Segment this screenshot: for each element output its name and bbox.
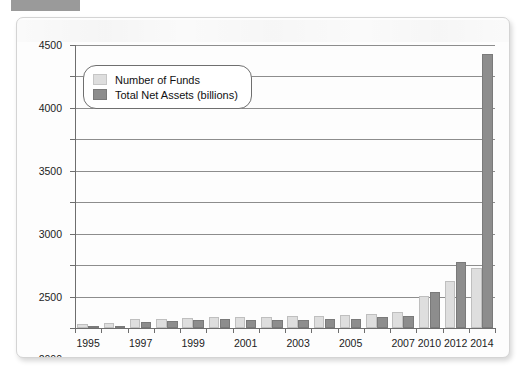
x-axis-tick-label: 2005	[339, 337, 362, 349]
x-axis-tick-label: 2001	[234, 337, 257, 349]
x-axis-tick	[495, 328, 496, 333]
gridline	[75, 139, 495, 140]
y-axis-tick: 4000	[70, 76, 75, 77]
bar-funds-2014	[471, 268, 482, 328]
bar-assets-2001	[246, 320, 257, 328]
y-axis-tick: 3000	[70, 139, 75, 140]
x-axis-tick	[154, 328, 155, 333]
bar-assets-2010	[430, 292, 441, 328]
bar-assets-2000	[220, 319, 231, 328]
bar-funds-2010	[419, 296, 430, 328]
y-axis-tick-label: 3000	[39, 228, 62, 240]
y-axis-tick: 1000	[70, 265, 75, 266]
bar-assets-2012	[456, 262, 467, 328]
bar-funds-1996	[104, 323, 115, 328]
x-axis-tick-label: 2010	[418, 337, 441, 349]
x-axis-tick	[206, 328, 207, 333]
y-axis-tick: 3500	[70, 108, 75, 109]
background-bleed-through	[17, 20, 509, 42]
y-axis-tick: 1500	[70, 234, 75, 235]
y-axis-tick: 2500	[70, 171, 75, 172]
bar-funds-2006	[366, 314, 377, 328]
legend-label-funds: Number of Funds	[115, 74, 200, 86]
x-axis-tick	[364, 328, 365, 333]
x-axis-tick	[101, 328, 102, 333]
legend-label-assets: Total Net Assets (billions)	[115, 89, 238, 101]
bar-assets-2007	[403, 316, 414, 328]
gridline	[75, 234, 495, 235]
x-axis-tick-label: 2003	[286, 337, 309, 349]
x-axis-tick	[259, 328, 260, 333]
x-axis-tick-label: 1997	[129, 337, 152, 349]
x-axis-tick	[180, 328, 181, 333]
bar-funds-2005	[340, 315, 351, 328]
bar-funds-2002	[261, 317, 272, 328]
x-axis-tick	[416, 328, 417, 333]
x-axis-tick-label: 1995	[76, 337, 99, 349]
x-axis-tick-label: 1999	[181, 337, 204, 349]
x-axis-tick	[128, 328, 129, 333]
x-axis-tick	[443, 328, 444, 333]
gridline	[75, 45, 495, 46]
x-axis-tick-label: 2014	[470, 337, 493, 349]
x-axis-tick-label: 2007	[391, 337, 414, 349]
x-axis-tick	[285, 328, 286, 333]
chart-card: 050010001500200025003000350040004500 199…	[16, 17, 510, 358]
y-axis-tick-label: 4500	[39, 39, 62, 51]
y-axis-tick-label: 3500	[39, 165, 62, 177]
x-axis-tick	[75, 328, 76, 333]
gridline	[75, 171, 495, 172]
gridline	[75, 202, 495, 203]
x-axis-tick	[233, 328, 234, 333]
bar-assets-2004	[325, 319, 336, 328]
bar-funds-2007	[392, 312, 403, 328]
bar-funds-1999	[182, 318, 193, 328]
y-axis-tick-label: 4000	[39, 102, 62, 114]
y-axis-tick: 2000	[70, 202, 75, 203]
x-axis-tick	[469, 328, 470, 333]
y-axis-tick-label: 2500	[39, 291, 62, 303]
legend-item-assets: Total Net Assets (billions)	[93, 87, 238, 102]
bar-assets-2006	[377, 317, 388, 328]
x-axis-tick	[390, 328, 391, 333]
chart-legend: Number of Funds Total Net Assets (billio…	[83, 65, 252, 109]
legend-item-funds: Number of Funds	[93, 72, 238, 87]
bar-funds-2000	[209, 317, 220, 328]
assets-swatch-icon	[93, 89, 107, 100]
x-axis-tick	[311, 328, 312, 333]
y-axis-tick: 500	[70, 297, 75, 298]
y-axis-tick-label: 2000	[39, 353, 62, 358]
bar-funds-1998	[156, 319, 167, 328]
redacted-label-tag	[11, 0, 80, 11]
bar-funds-2012	[445, 281, 456, 328]
bar-assets-1995	[88, 326, 99, 328]
bar-assets-1999	[193, 320, 204, 328]
bar-assets-2005	[351, 319, 362, 328]
x-axis-tick-label: 2012	[444, 337, 467, 349]
bar-assets-1998	[167, 321, 178, 328]
bar-assets-2002	[272, 320, 283, 328]
bar-funds-2003	[287, 316, 298, 328]
bar-funds-2004	[314, 316, 325, 328]
bar-assets-1997	[141, 322, 152, 328]
funds-swatch-icon	[93, 74, 107, 85]
bar-funds-1997	[130, 319, 141, 328]
gridline	[75, 265, 495, 266]
y-axis-line	[75, 45, 76, 329]
bar-assets-2003	[298, 320, 309, 328]
bar-funds-1995	[77, 324, 88, 328]
bar-assets-2014	[482, 54, 493, 328]
x-axis-tick	[338, 328, 339, 333]
y-axis-tick: 4500	[70, 45, 75, 46]
bar-funds-2001	[235, 317, 246, 328]
bar-assets-1996	[115, 326, 126, 328]
